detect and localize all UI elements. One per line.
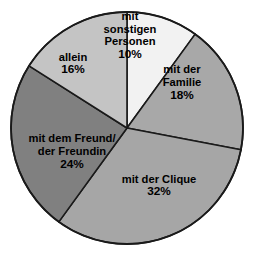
pie-slice-label-line: mit der Clique	[122, 173, 197, 185]
pie-slice-percent-clique: 32%	[147, 184, 171, 198]
pie-slice-label-line: mit der	[163, 63, 201, 75]
pie-chart: mitsonstigenPersonen10%mit derFamilie18%…	[0, 0, 253, 259]
pie-slice-label-line: mit	[122, 10, 139, 22]
pie-slice-percent-freund-freundin: 24%	[60, 157, 84, 171]
pie-slice-percent-familie: 18%	[170, 88, 194, 102]
pie-chart-svg: mitsonstigenPersonen10%mit derFamilie18%…	[0, 0, 253, 259]
pie-slice-label-line: sonstigen	[104, 23, 157, 35]
pie-slice-percent-allein: 16%	[61, 62, 85, 76]
pie-slice-percent-sonstige-personen: 10%	[118, 47, 142, 61]
pie-slice-label-line: Personen	[105, 35, 156, 47]
pie-slice-label-line: der Freundin	[38, 145, 107, 157]
pie-slice-label-allein: allein16%	[59, 51, 88, 77]
pie-slice-label-line: Familie	[163, 76, 202, 88]
pie-slice-label-line: mit dem Freund/	[28, 132, 115, 144]
pie-slice-label-line: allein	[59, 51, 88, 63]
